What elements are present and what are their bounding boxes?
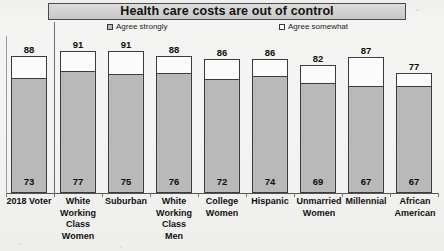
- bar-segment-agree-strongly: 67: [397, 86, 431, 192]
- chart-title: Health care costs are out of control: [120, 5, 333, 18]
- bar-segment-agree-strongly: 67: [349, 86, 383, 192]
- category-label: White Working Class Men: [152, 196, 196, 242]
- bar-slot: 91 77: [60, 36, 96, 193]
- bar-total-label: 82: [300, 54, 336, 64]
- bar-stacked[interactable]: 76: [156, 56, 192, 193]
- bar-segment-label: 69: [313, 177, 324, 187]
- bar-stacked[interactable]: 69: [300, 65, 336, 193]
- bar-total-label: 77: [396, 62, 432, 72]
- bar-segment-label: 76: [169, 177, 180, 187]
- bar-segment-label: 74: [265, 177, 276, 187]
- scan-artifact: [231, 16, 233, 18]
- scan-artifact: [18, 243, 21, 245]
- bar-total-label: 88: [11, 45, 47, 55]
- bar-segment-label: 72: [217, 177, 228, 187]
- bar-total-label: 86: [252, 48, 288, 58]
- bar-total-label: 91: [60, 40, 96, 50]
- bar-total-label: 88: [156, 45, 192, 55]
- bar-stacked[interactable]: 74: [252, 59, 288, 193]
- legend-label-agree-strongly: Agree strongly: [116, 23, 168, 31]
- bar-slot: 77 67: [396, 36, 432, 193]
- bar-slot: 91 75: [108, 36, 144, 193]
- bar-slot: 86 72: [204, 36, 240, 193]
- bar-slot: 88 73: [11, 36, 47, 193]
- bar-segment-label: 67: [409, 177, 420, 187]
- bar-total-label: 87: [348, 46, 384, 56]
- category-label: Millennial: [342, 196, 390, 208]
- bar-segment-agree-strongly: 77: [61, 71, 95, 192]
- bar-segment-agree-strongly: 69: [301, 83, 335, 192]
- category-label: Suburban: [102, 196, 150, 208]
- bar-total-label: 86: [204, 48, 240, 58]
- legend-swatch-icon-agree-somewhat: [279, 24, 285, 30]
- bar-total-label: 91: [108, 40, 144, 50]
- plot-area: 88 73 91 77 91 75: [0, 36, 444, 194]
- bar-slot: 82 69: [300, 36, 336, 193]
- bar-stacked[interactable]: 67: [348, 57, 384, 193]
- axis-left-line: [6, 36, 7, 193]
- chart-title-box: Health care costs are out of control: [48, 3, 406, 20]
- chart-container: Health care costs are out of control Agr…: [0, 0, 444, 251]
- legend-swatch-icon-agree-strongly: [107, 24, 113, 30]
- bar-slot: 87 67: [348, 36, 384, 193]
- category-label: White Working Class Women: [58, 196, 98, 242]
- legend-item-agree-somewhat: Agree somewhat: [279, 23, 348, 31]
- bar-stacked[interactable]: 67: [396, 73, 432, 193]
- axis-bottom-line: [6, 193, 438, 194]
- category-label: African American: [392, 196, 438, 219]
- bar-slot: 86 74: [252, 36, 288, 193]
- bar-slot: 88 76: [156, 36, 192, 193]
- category-label: 2018 Voter: [4, 196, 54, 208]
- legend-label-agree-somewhat: Agree somewhat: [288, 23, 348, 31]
- group-divider-line: [54, 22, 55, 193]
- bar-segment-agree-strongly: 74: [253, 76, 287, 192]
- bar-segment-agree-strongly: 73: [12, 78, 46, 192]
- chart-legend: Agree strongly Agree somewhat: [0, 23, 444, 36]
- bar-stacked[interactable]: 75: [108, 51, 144, 193]
- bar-segment-label: 67: [361, 177, 372, 187]
- scan-artifact: [416, 9, 419, 11]
- legend-item-agree-strongly: Agree strongly: [107, 23, 168, 31]
- category-label: Hispanic: [246, 196, 294, 208]
- bar-segment-label: 77: [73, 177, 84, 187]
- category-axis-labels: 2018 Voter White Working Class Women Sub…: [0, 196, 444, 251]
- bar-segment-agree-strongly: 76: [157, 73, 191, 192]
- bar-segment-agree-strongly: 75: [109, 74, 143, 192]
- bar-segment-label: 75: [121, 177, 132, 187]
- category-label: College Women: [200, 196, 244, 219]
- category-label: Unmarried Women: [295, 196, 343, 219]
- bar-stacked[interactable]: 72: [204, 59, 240, 193]
- bar-stacked[interactable]: 77: [60, 51, 96, 193]
- scan-artifact: [120, 246, 122, 248]
- bar-segment-agree-strongly: 72: [205, 79, 239, 192]
- bar-stacked[interactable]: 73: [11, 56, 47, 193]
- bar-segment-label: 73: [24, 177, 35, 187]
